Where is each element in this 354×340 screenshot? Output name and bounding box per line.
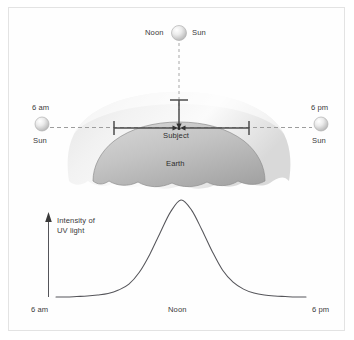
chart-tick-label-noon: Noon xyxy=(168,305,187,314)
chart-y-axis xyxy=(45,212,52,297)
uv-intensity-chart xyxy=(0,0,354,340)
chart-tick-label-6am: 6 am xyxy=(31,305,48,314)
chart-tick-label-6pm: 6 pm xyxy=(312,305,329,314)
chart-y-axis-label-line2: UV light xyxy=(57,226,84,235)
chart-y-axis-label-line1: Intensity of xyxy=(57,216,95,225)
uv-intensity-curve xyxy=(56,200,306,297)
figure-container: Noon Sun 6 am Sun 6 pm Sun Subject Earth… xyxy=(0,0,354,340)
